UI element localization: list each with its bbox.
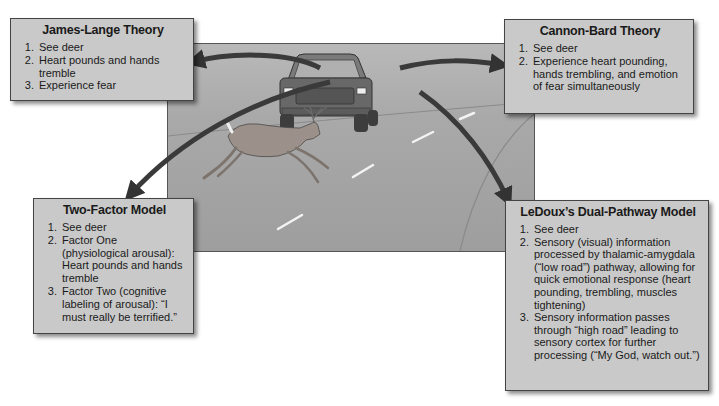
step-item: See deer (532, 223, 700, 236)
step-item: Experience fear (37, 79, 185, 92)
step-item: Experience heart pounding, hands trembli… (531, 55, 685, 93)
james-lange-steps: See deer Heart pounds and hands tremble … (21, 41, 185, 92)
step-item: See deer (37, 41, 185, 54)
two-factor-model-box: Two-Factor Model See deer Factor One (ph… (33, 198, 194, 334)
step-item: See deer (60, 221, 185, 234)
cannon-bard-title: Cannon-Bard Theory (515, 24, 685, 38)
road-scene-graphic (168, 44, 534, 251)
two-factor-title: Two-Factor Model (44, 203, 185, 217)
cannon-bard-theory-box: Cannon-Bard Theory See deer Experience h… (504, 19, 694, 114)
step-item: Factor Two (cognitive labeling of arousa… (60, 285, 185, 323)
step-item: Sensory information passes through “high… (532, 311, 700, 361)
cannon-bard-steps: See deer Experience heart pounding, hand… (515, 42, 685, 93)
step-item: See deer (531, 42, 685, 55)
james-lange-theory-box: James-Lange Theory See deer Heart pounds… (10, 18, 194, 101)
ledoux-title: LeDoux’s Dual-Pathway Model (516, 205, 700, 219)
ledoux-steps: See deer Sensory (visual) information pr… (516, 223, 700, 362)
james-lange-title: James-Lange Theory (21, 23, 185, 37)
road-scene-illustration (167, 43, 535, 252)
step-item: Sensory (visual) information processed b… (532, 236, 700, 312)
two-factor-steps: See deer Factor One (physiological arous… (44, 221, 185, 323)
step-item: Factor One (physiological arousal): Hear… (60, 234, 185, 285)
step-item: Heart pounds and hands tremble (37, 54, 185, 80)
deer-icon (204, 106, 328, 182)
ledoux-dual-pathway-model-box: LeDoux’s Dual-Pathway Model See deer Sen… (505, 200, 709, 391)
